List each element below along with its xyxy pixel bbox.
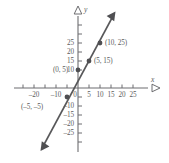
x-axis-arrow-icon [152,84,160,92]
coordinate-plane-figure: 25 20 15 10 –10 –15 –20 –25 –20 –10 0 5 … [0,0,169,163]
point-label-neg5-neg5: (–5, –5) [21,104,43,111]
y-tick-label-neg10: –10 [54,103,74,110]
y-tick-label-neg25: –25 [54,130,74,137]
x-tick-label-neg10: –10 [47,92,65,99]
point-label-10-25: (10, 25) [105,40,127,47]
x-tick-label-0: 0 [70,92,80,99]
point-label-0-5: (0, 5) [53,67,68,74]
y-tick-label-15: 15 [56,58,74,65]
y-tick-label-neg20: –20 [54,121,74,128]
y-axis-label: y [84,6,87,14]
data-point-neg5-neg5 [65,95,70,100]
point-label-5-15: (5, 15) [94,58,112,65]
x-tick-label-25: 25 [126,92,140,99]
y-axis-ticks [78,25,82,142]
data-point-10-25 [98,41,103,46]
y-tick-label-neg15: –15 [54,112,74,119]
data-point-5-15 [87,59,92,64]
graph-canvas [0,0,169,163]
y-axis-arrow-icon [74,6,82,14]
y-tick-label-20: 20 [56,49,74,56]
x-axis-label: x [151,76,154,84]
y-tick-label-25: 25 [56,40,74,47]
data-point-0-5 [76,68,81,73]
x-tick-label-neg20: –20 [25,92,43,99]
